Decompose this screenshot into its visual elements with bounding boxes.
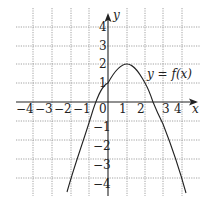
x-tick-labels: −4 −3 −2 −1 0 1 2 3 4 <box>16 102 182 116</box>
y-tick-label: −4 <box>93 177 111 191</box>
curve-label: y = f(x) <box>146 67 192 81</box>
x-tick-label: −3 <box>35 102 53 116</box>
x-tick-label: −2 <box>54 102 72 116</box>
y-tick-label: −3 <box>93 158 111 172</box>
y-tick-label: −2 <box>93 139 111 153</box>
y-axis-label: y <box>112 8 120 22</box>
x-tick-label: 1 <box>119 102 127 116</box>
x-tick-label: 2 <box>137 102 145 116</box>
y-tick-label: 4 <box>99 20 107 34</box>
x-axis-label: x <box>192 102 199 116</box>
y-tick-label: −1 <box>93 120 111 134</box>
function-graph: x y −4 −3 −2 −1 0 1 2 3 4 4 3 2 1 −1 −2 … <box>0 0 210 210</box>
x-tick-label: 0 <box>99 102 107 116</box>
x-tick-label: −1 <box>73 102 91 116</box>
y-tick-label: 3 <box>99 39 107 53</box>
x-tick-label: 3 <box>162 102 170 116</box>
y-tick-label: 2 <box>99 57 107 71</box>
x-tick-label: 4 <box>174 102 182 116</box>
x-tick-label: −4 <box>16 102 34 116</box>
